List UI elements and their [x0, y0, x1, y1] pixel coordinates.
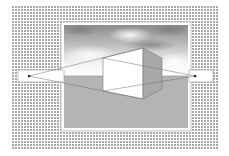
- cloud: [157, 52, 193, 72]
- right-vanishing-point: [194, 75, 196, 77]
- diagram-canvas: [0, 0, 229, 156]
- left-vanishing-point: [28, 75, 30, 77]
- cloud: [124, 39, 176, 51]
- left-vanishing-point-box: [18, 70, 64, 82]
- cloud: [150, 23, 190, 37]
- right-vanishing-point-box: [189, 70, 213, 82]
- cloud: [62, 24, 98, 36]
- perspective-diagram: [0, 0, 229, 156]
